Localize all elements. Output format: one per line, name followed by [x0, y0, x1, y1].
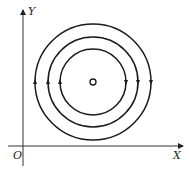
arrow-down-icon: [124, 80, 128, 85]
diagram-canvas: [0, 0, 189, 173]
center-point: [90, 79, 96, 85]
arrow-down-icon: [136, 80, 140, 85]
x-axis-label: X: [173, 150, 181, 161]
field-circle-middle: [48, 37, 138, 127]
origin-label: O: [13, 150, 22, 161]
arrow-up-icon: [58, 79, 62, 84]
y-axis-label: Y: [28, 6, 35, 17]
arrow-down-icon: [149, 80, 153, 85]
arrow-up-icon: [46, 79, 50, 84]
field-circle-inner: [60, 49, 126, 115]
field-circle-outer: [35, 24, 151, 140]
arrow-up-icon: [33, 79, 37, 84]
direction-arrows: [33, 79, 153, 85]
